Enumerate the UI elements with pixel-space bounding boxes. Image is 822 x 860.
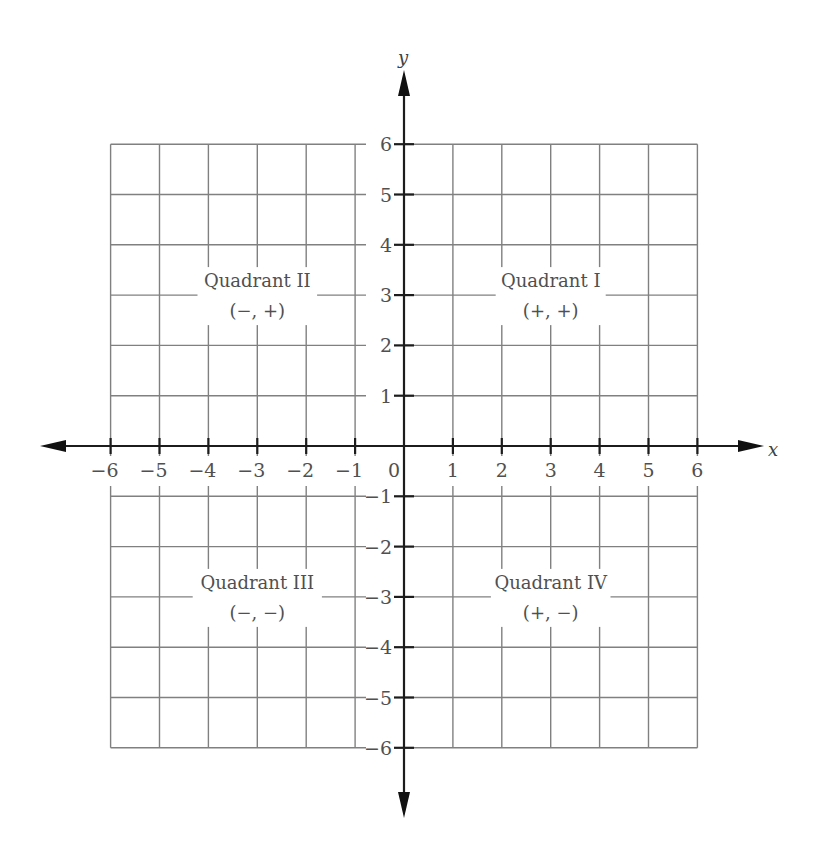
- x-tick-label: 6: [691, 459, 703, 481]
- x-tick-label: 1: [447, 459, 459, 481]
- y-tick-label: −4: [364, 636, 392, 658]
- quadrant-signs: (+, −): [523, 602, 579, 623]
- quadrant-name: Quadrant II: [204, 270, 311, 291]
- quadrant-signs: (−, −): [229, 602, 285, 623]
- y-tick-label: −5: [364, 687, 392, 709]
- y-tick-label: −3: [364, 586, 392, 608]
- x-tick-label: −4: [188, 459, 216, 481]
- x-tick-label: −3: [237, 459, 265, 481]
- quadrant-name: Quadrant III: [200, 572, 314, 593]
- x-tick-label: 0: [388, 459, 400, 481]
- axes: x y: [40, 47, 778, 818]
- x-axis-arrow-right-icon: [738, 440, 764, 452]
- quadrant-iv-label: Quadrant IV(+, −): [491, 569, 611, 627]
- quadrant-iii-label: Quadrant III(−, −): [193, 569, 322, 627]
- quadrant-name: Quadrant IV: [494, 572, 608, 593]
- x-axis-arrow-left-icon: [40, 440, 66, 452]
- y-axis-arrow-down-icon: [398, 792, 410, 818]
- quadrant-ii-label: Quadrant II(−, +): [198, 267, 318, 325]
- x-tick-label: −5: [139, 459, 167, 481]
- x-tick-label: −2: [286, 459, 314, 481]
- x-tick-label: 5: [642, 459, 654, 481]
- y-tick-label: 4: [380, 234, 392, 256]
- quadrant-i-label: Quadrant I(+, +): [496, 267, 606, 325]
- quadrant-signs: (−, +): [229, 300, 285, 321]
- x-tick-label: 3: [545, 459, 557, 481]
- y-tick-label: −6: [364, 737, 392, 759]
- x-axis-label: x: [768, 439, 778, 460]
- x-tick-label: −1: [335, 459, 363, 481]
- x-tick-label: −6: [91, 459, 119, 481]
- x-tick-label: 4: [594, 459, 606, 481]
- x-tick-label: 2: [496, 459, 508, 481]
- y-axis-label: y: [397, 47, 409, 68]
- quadrant-name: Quadrant I: [501, 270, 601, 291]
- coordinate-plane: x y −6−5−4−3−2−10123456654321−1−2−3−4−5−…: [0, 0, 822, 860]
- y-tick-label: 2: [380, 334, 392, 356]
- y-tick-label: 3: [380, 284, 392, 306]
- y-tick-label: 6: [380, 133, 392, 155]
- y-axis-arrow-up-icon: [398, 70, 410, 96]
- y-tick-label: −1: [364, 485, 392, 507]
- y-tick-label: 5: [380, 184, 392, 206]
- y-tick-label: 1: [380, 385, 392, 407]
- quadrant-signs: (+, +): [523, 300, 579, 321]
- y-tick-label: −2: [364, 536, 392, 558]
